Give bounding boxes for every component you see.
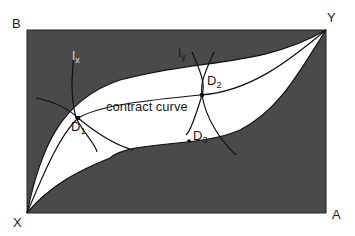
point-d3 <box>187 139 191 143</box>
corner-label-x: X <box>13 215 22 230</box>
corner-label-y: Y <box>327 10 336 25</box>
corner-label-a: A <box>332 207 341 222</box>
edgeworth-box-diagram: B Y X A Ix Iy D1 D2 D3 contract curve <box>0 0 355 236</box>
point-d2 <box>200 93 205 98</box>
corner-label-b: B <box>12 16 21 31</box>
contract-curve-label: contract curve <box>106 99 188 114</box>
